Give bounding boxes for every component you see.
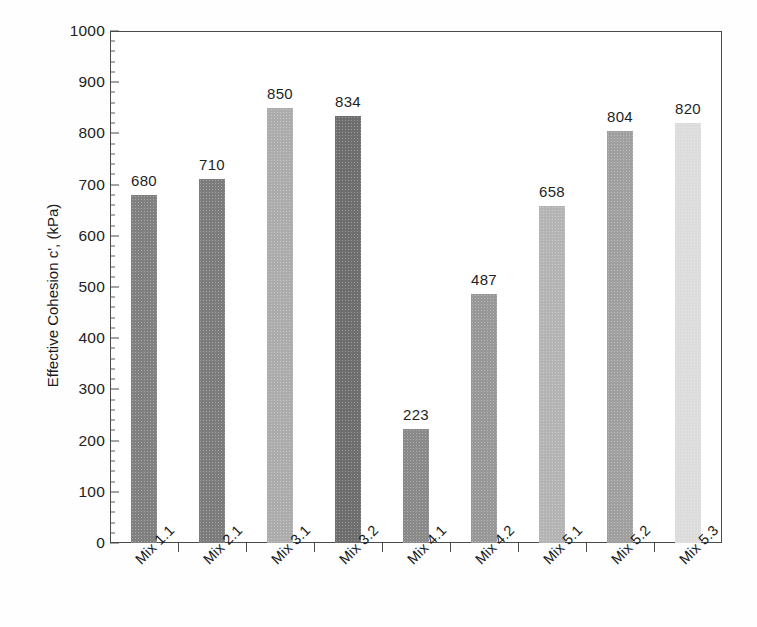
- y-tick-minor: [110, 450, 115, 451]
- y-tick-label: 200: [79, 432, 105, 450]
- bar-value-label: 487: [471, 271, 497, 288]
- bar: [267, 108, 293, 543]
- y-tick-minor: [110, 174, 115, 175]
- bar-value-label: 820: [675, 100, 701, 117]
- y-tick-minor: [110, 348, 115, 349]
- bar-texture: [335, 116, 361, 543]
- y-tick-minor: [110, 112, 115, 113]
- y-tick-minor: [110, 297, 115, 298]
- bar-value-label: 850: [267, 85, 293, 102]
- y-axis-title: Effective Cohesion c', (kPa): [44, 146, 61, 446]
- y-tick-label: 300: [79, 380, 105, 398]
- bar-texture: [675, 123, 701, 543]
- x-tick: [246, 543, 247, 552]
- y-tick-minor: [110, 123, 115, 124]
- x-tick: [382, 543, 383, 552]
- x-tick: [178, 543, 179, 552]
- y-tick-major: [110, 133, 119, 134]
- y-tick-minor: [110, 471, 115, 472]
- y-tick-minor: [110, 276, 115, 277]
- y-tick-minor: [110, 205, 115, 206]
- bar: [607, 131, 633, 543]
- y-tick-minor: [110, 379, 115, 380]
- y-tick-minor: [110, 215, 115, 216]
- y-tick-label: 500: [79, 278, 105, 296]
- y-tick-label: 900: [79, 73, 105, 91]
- y-axis: Effective Cohesion c', (kPa) 01002003004…: [0, 0, 110, 627]
- bar-texture: [267, 108, 293, 543]
- y-tick-minor: [110, 61, 115, 62]
- bar-value-label: 710: [199, 156, 225, 173]
- bar-texture: [607, 131, 633, 543]
- y-tick-major: [110, 235, 119, 236]
- bar: [131, 195, 157, 543]
- bar-value-label: 223: [403, 406, 429, 423]
- bar-value-label: 658: [539, 183, 565, 200]
- bar: [403, 429, 429, 543]
- y-tick-minor: [110, 399, 115, 400]
- y-tick-label: 600: [79, 227, 105, 245]
- x-tick: [314, 543, 315, 552]
- y-tick-minor: [110, 409, 115, 410]
- y-tick-label: 0: [96, 534, 105, 552]
- y-tick-minor: [110, 266, 115, 267]
- y-tick-minor: [110, 317, 115, 318]
- bar: [335, 116, 361, 543]
- y-tick-minor: [110, 512, 115, 513]
- y-tick-minor: [110, 102, 115, 103]
- y-tick-major: [110, 491, 119, 492]
- y-tick-major: [110, 31, 119, 32]
- y-tick-label: 800: [79, 124, 105, 142]
- y-tick-minor: [110, 532, 115, 533]
- y-tick-minor: [110, 225, 115, 226]
- y-tick-minor: [110, 194, 115, 195]
- y-tick-minor: [110, 41, 115, 42]
- bar-texture: [403, 429, 429, 543]
- y-tick-major: [110, 389, 119, 390]
- chart-figure: Effective Cohesion c', (kPa) 01002003004…: [0, 0, 757, 627]
- y-tick-minor: [110, 358, 115, 359]
- y-tick-minor: [110, 461, 115, 462]
- y-tick-minor: [110, 327, 115, 328]
- y-tick-major: [110, 184, 119, 185]
- y-tick-minor: [110, 307, 115, 308]
- bar-value-label: 834: [335, 93, 361, 110]
- y-tick-minor: [110, 430, 115, 431]
- bar-texture: [199, 179, 225, 543]
- bar: [539, 206, 565, 543]
- x-tick: [518, 543, 519, 552]
- y-tick-minor: [110, 481, 115, 482]
- y-tick-label: 400: [79, 329, 105, 347]
- y-tick-major: [110, 440, 119, 441]
- y-tick-major: [110, 338, 119, 339]
- y-tick-minor: [110, 143, 115, 144]
- bar-value-label: 680: [131, 172, 157, 189]
- y-tick-label: 100: [79, 483, 105, 501]
- y-tick-minor: [110, 246, 115, 247]
- y-tick-label: 700: [79, 176, 105, 194]
- y-tick-minor: [110, 71, 115, 72]
- bar: [675, 123, 701, 543]
- bar-texture: [471, 294, 497, 543]
- bar-value-label: 804: [607, 108, 633, 125]
- y-tick-minor: [110, 368, 115, 369]
- x-tick: [654, 543, 655, 552]
- y-tick-minor: [110, 153, 115, 154]
- y-tick-minor: [110, 420, 115, 421]
- bar: [471, 294, 497, 543]
- y-tick-major: [110, 82, 119, 83]
- y-tick-major: [110, 287, 119, 288]
- y-tick-major: [110, 543, 119, 544]
- bar-texture: [131, 195, 157, 543]
- bar-texture: [539, 206, 565, 543]
- x-tick: [586, 543, 587, 552]
- y-tick-minor: [110, 92, 115, 93]
- x-tick: [450, 543, 451, 552]
- y-tick-minor: [110, 502, 115, 503]
- y-tick-minor: [110, 522, 115, 523]
- y-tick-minor: [110, 51, 115, 52]
- bar: [199, 179, 225, 543]
- y-tick-label: 1000: [70, 22, 105, 40]
- y-tick-minor: [110, 256, 115, 257]
- y-tick-minor: [110, 164, 115, 165]
